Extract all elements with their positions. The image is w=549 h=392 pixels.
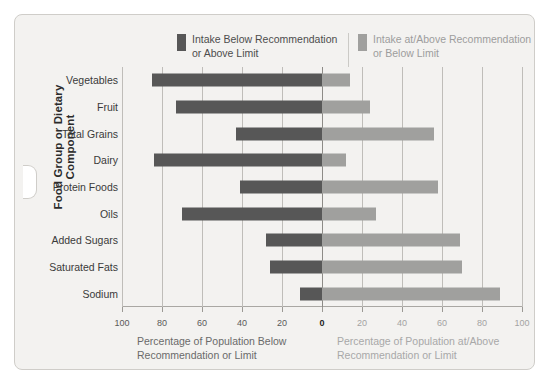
x-axis-tick-label: 20 xyxy=(277,318,287,328)
legend-swatch-dark xyxy=(177,34,186,51)
chart-card: Intake Below Recommendation or Above Lim… xyxy=(14,14,535,370)
category-label: Sodium xyxy=(18,288,118,300)
bar-right xyxy=(322,287,500,300)
category-label: Fruit xyxy=(18,101,118,113)
category-label: Saturated Fats xyxy=(18,261,118,273)
legend-divider xyxy=(348,33,349,67)
legend-label-below-recommendation: Intake Below Recommendation or Above Lim… xyxy=(192,33,337,60)
x-axis-tick-label: 60 xyxy=(197,318,207,328)
bar-left xyxy=(236,127,322,140)
x-axis-caption-right: Percentage of Population at/Above Recomm… xyxy=(337,335,522,362)
gridline xyxy=(522,67,523,307)
x-axis-tick xyxy=(282,307,283,312)
bar-left xyxy=(152,74,322,87)
plot-canvas: 10080604020020406080100 xyxy=(122,67,522,307)
x-axis-tick xyxy=(482,307,483,312)
bar-left xyxy=(266,234,322,247)
bar-left xyxy=(300,287,322,300)
category-label: Protein Foods xyxy=(18,181,118,193)
x-axis-tick xyxy=(442,307,443,312)
x-axis-tick-label: 100 xyxy=(514,318,529,328)
x-axis-tick xyxy=(522,307,523,312)
bar-right xyxy=(322,261,462,274)
legend-label-at-above-recommendation: Intake at/Above Recommendation or Below … xyxy=(373,33,531,60)
x-axis-tick-label: 40 xyxy=(237,318,247,328)
bar-left xyxy=(176,101,322,114)
x-axis-tick-label: 40 xyxy=(397,318,407,328)
bar-right xyxy=(322,127,434,140)
category-label: Dairy xyxy=(18,154,118,166)
gridline xyxy=(482,67,483,307)
legend-item-at-above-recommendation: Intake at/Above Recommendation or Below … xyxy=(358,33,531,60)
chart-page: Intake Below Recommendation or Above Lim… xyxy=(0,0,549,392)
category-label: Oils xyxy=(18,208,118,220)
bar-left xyxy=(240,181,322,194)
category-label: Added Sugars xyxy=(18,234,118,246)
legend-item-below-recommendation: Intake Below Recommendation or Above Lim… xyxy=(177,33,337,60)
x-axis-tick xyxy=(242,307,243,312)
legend-swatch-light xyxy=(358,34,367,51)
x-axis-tick xyxy=(362,307,363,312)
x-axis-tick xyxy=(162,307,163,312)
bar-right xyxy=(322,181,438,194)
gridline xyxy=(162,67,163,307)
gridline xyxy=(122,67,123,307)
category-labels: VegetablesFruitTotal GrainsDairyProtein … xyxy=(18,67,118,307)
x-axis-caption-left: Percentage of Population Below Recommend… xyxy=(137,335,312,362)
category-label: Vegetables xyxy=(18,74,118,86)
plot-area: VegetablesFruitTotal GrainsDairyProtein … xyxy=(122,67,522,307)
x-axis-tick xyxy=(402,307,403,312)
bar-right xyxy=(322,154,346,167)
x-axis-tick-label: 80 xyxy=(477,318,487,328)
bar-right xyxy=(322,101,370,114)
category-label: Total Grains xyxy=(18,128,118,140)
x-axis-tick-label: 100 xyxy=(114,318,129,328)
bar-left xyxy=(182,207,322,220)
x-axis-tick-label: 60 xyxy=(437,318,447,328)
bar-left xyxy=(270,261,322,274)
x-axis-tick xyxy=(202,307,203,312)
x-axis-tick-label: 20 xyxy=(357,318,367,328)
x-axis-tick-label: 0 xyxy=(319,318,324,328)
x-axis-tick-label: 80 xyxy=(157,318,167,328)
bar-right xyxy=(322,207,376,220)
bar-left xyxy=(154,154,322,167)
bar-right xyxy=(322,234,460,247)
x-axis-tick xyxy=(122,307,123,312)
x-axis-tick xyxy=(322,307,323,312)
bar-right xyxy=(322,74,350,87)
